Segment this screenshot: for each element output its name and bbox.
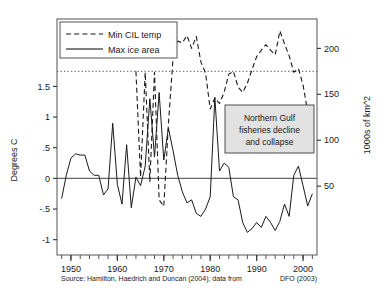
- y-axis-right-tick-label: 50: [324, 181, 334, 191]
- y-axis-right-tick-label: 200: [324, 44, 339, 54]
- annotation-line-1: Northern Gulf: [244, 113, 296, 123]
- annotation-line-3: and collapse: [246, 137, 294, 147]
- x-axis-tick-label: 1990: [247, 264, 267, 274]
- climate-line-chart: 195019601970198019902000 1.51.50-.5-1 20…: [0, 0, 384, 304]
- legend-label-min-cil-temp: Min CIL temp: [108, 30, 161, 40]
- y-axis-left-tick-label: 0: [45, 174, 50, 184]
- annotation-line-2: fisheries decline: [239, 125, 300, 135]
- fisheries-annotation: Northern Gulf fisheries decline and coll…: [225, 105, 314, 153]
- x-axis-tick-label: 1950: [61, 264, 81, 274]
- y-axis-left-tick-label: 1: [45, 112, 50, 122]
- x-axis-tick-label: 1960: [107, 264, 127, 274]
- y-axis-left-tick-label: 1.5: [37, 82, 50, 92]
- y-axis-right-tick-label: 150: [324, 89, 339, 99]
- y-axis-right-tick-label: 100: [324, 135, 339, 145]
- legend-label-max-ice-area: Max ice area: [108, 45, 160, 55]
- y-axis-left-label: Degrees C: [9, 138, 19, 182]
- chart-legend: Min CIL temp Max ice area: [60, 22, 177, 58]
- y-axis-left-tick-label: .5: [42, 143, 50, 153]
- chart-container: 195019601970198019902000 1.51.50-.5-1 20…: [0, 0, 384, 304]
- y-axis-left-tick-label: -.5: [39, 204, 50, 214]
- source-note-left: Source: Hamilton, Haedrich and Duncan (2…: [61, 275, 242, 283]
- x-axis-tick-label: 1970: [154, 264, 174, 274]
- source-note-right: DFO (2003): [280, 275, 317, 283]
- x-axis-tick-label: 1980: [200, 264, 220, 274]
- y-axis-left-tick-label: -1: [42, 235, 50, 245]
- x-axis-tick-label: 2000: [293, 264, 313, 274]
- y-axis-right-label: 1000s of km^2: [362, 96, 372, 154]
